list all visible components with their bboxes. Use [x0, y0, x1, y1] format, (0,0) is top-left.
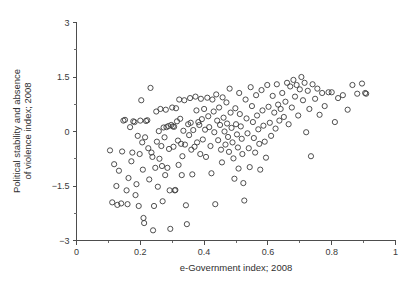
x-axis-title: e-Government index; 2008: [180, 262, 292, 273]
data-point: [283, 99, 288, 104]
data-point: [232, 176, 237, 181]
data-point: [120, 149, 125, 154]
data-point: [224, 121, 229, 126]
data-point: [243, 97, 248, 102]
data-point: [135, 133, 140, 138]
data-point: [155, 184, 160, 189]
data-point: [138, 118, 143, 123]
data-point: [272, 110, 277, 115]
data-point: [237, 90, 242, 95]
data-point: [198, 151, 203, 156]
data-point: [230, 140, 235, 145]
data-point: [340, 93, 345, 98]
data-point: [142, 220, 147, 225]
data-point: [263, 155, 268, 160]
x-tick-label: 0.4: [198, 247, 211, 257]
data-point: [225, 134, 230, 139]
data-point: [193, 94, 198, 99]
data-point: [313, 96, 318, 101]
data-point: [270, 93, 275, 98]
data-point: [307, 106, 312, 111]
data-point: [127, 125, 132, 130]
data-point: [315, 86, 320, 91]
data-point: [335, 95, 340, 100]
data-point: [165, 165, 170, 170]
data-point: [163, 107, 168, 112]
data-point: [355, 91, 360, 96]
data-point: [251, 135, 256, 140]
data-point: [267, 120, 272, 125]
y-axis-title-line1: Political stability and absence: [11, 69, 22, 193]
data-point: [277, 118, 282, 123]
data-point: [153, 165, 158, 170]
data-point: [278, 106, 283, 111]
data-point: [247, 165, 252, 170]
data-point: [168, 226, 173, 231]
data-point: [151, 203, 156, 208]
data-point: [224, 100, 229, 105]
data-point: [136, 203, 141, 208]
data-point: [140, 167, 145, 172]
data-point: [107, 148, 112, 153]
data-point: [228, 110, 233, 115]
data-point: [157, 156, 162, 161]
data-point: [266, 104, 271, 109]
data-point: [304, 130, 309, 135]
data-point: [183, 203, 188, 208]
data-point: [257, 141, 262, 146]
chart-canvas: −3−1.501.5300.20.40.60.81e-Government in…: [0, 0, 418, 286]
y-tick-label: 1.5: [57, 72, 70, 82]
data-point: [211, 109, 216, 114]
data-point: [214, 92, 219, 97]
data-point: [219, 160, 224, 165]
data-point: [234, 132, 239, 137]
data-point: [160, 199, 165, 204]
x-tick-label: 0.2: [134, 247, 147, 257]
data-point: [288, 84, 293, 89]
data-point: [310, 82, 315, 87]
data-point: [217, 122, 222, 127]
data-point: [260, 108, 265, 113]
data-point: [175, 138, 180, 143]
y-axis-title: Political stability and absenceof violen…: [11, 69, 33, 193]
data-point: [281, 114, 286, 119]
data-point: [141, 215, 146, 220]
data-point: [241, 180, 246, 185]
data-point: [237, 111, 242, 116]
data-point: [274, 82, 279, 87]
data-point: [182, 142, 187, 147]
data-point: [173, 106, 178, 111]
data-point: [249, 103, 254, 108]
data-point: [245, 131, 250, 136]
data-point: [212, 130, 217, 135]
data-point: [189, 147, 194, 152]
data-point: [235, 145, 240, 150]
data-point: [191, 127, 196, 132]
data-point: [208, 143, 213, 148]
data-point: [308, 154, 313, 159]
data-point: [162, 135, 167, 140]
data-point: [231, 156, 236, 161]
data-point: [239, 136, 244, 141]
data-point: [203, 154, 208, 159]
data-point: [210, 97, 215, 102]
data-point: [206, 114, 211, 119]
y-tick-label: 3: [64, 18, 69, 28]
x-tick-label: 0.8: [325, 247, 338, 257]
data-point: [297, 87, 302, 92]
data-point: [202, 106, 207, 111]
data-point: [205, 95, 210, 100]
data-point: [238, 124, 243, 129]
data-point: [300, 98, 305, 103]
data-point: [199, 117, 204, 122]
data-point: [254, 113, 259, 118]
data-point: [126, 175, 131, 180]
data-point: [156, 129, 161, 134]
data-point: [129, 159, 134, 164]
data-point: [254, 93, 259, 98]
data-point: [177, 97, 182, 102]
data-point: [182, 98, 187, 103]
data-point: [154, 139, 159, 144]
y-tick-label: 0: [64, 127, 69, 137]
data-point: [296, 113, 301, 118]
